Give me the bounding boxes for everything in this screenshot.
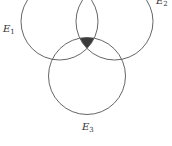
circle-e2 xyxy=(76,0,153,60)
label-e3: E3 xyxy=(81,121,94,134)
label-e1: E1 xyxy=(2,23,15,36)
label-e2: E2 xyxy=(155,0,168,8)
venn-diagram: E1 E2 E3 xyxy=(0,0,172,146)
circle-e1 xyxy=(21,0,98,60)
